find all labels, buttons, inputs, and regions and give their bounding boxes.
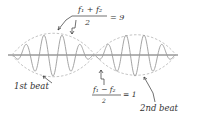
diff-value: = 1	[123, 90, 136, 99]
diff-denominator: 2	[101, 97, 106, 104]
sum-value: = 9	[110, 13, 124, 22]
envelope-lower	[12, 55, 176, 77]
envelope-upper	[12, 33, 176, 55]
arrow-icon	[144, 77, 155, 102]
second-beat-text: 2nd beat	[139, 103, 179, 113]
second-beat-label: 2nd beat	[139, 77, 179, 113]
arrow-icon	[72, 20, 76, 34]
first-beat-label: 1st beat	[14, 76, 52, 91]
sum-frequency-label: f₁ + f₂ 2 = 9	[58, 5, 124, 34]
sum-numerator: f₁ + f₂	[77, 5, 102, 14]
arrow-icon	[58, 16, 72, 30]
sum-denominator: 2	[84, 18, 90, 27]
beats-diagram: f₁ + f₂ 2 = 9 f₁ − f₂ 2 = 1 1st beat 2nd…	[0, 0, 197, 117]
first-beat-text: 1st beat	[14, 81, 49, 91]
diff-numerator: f₁ − f₂	[92, 85, 116, 94]
